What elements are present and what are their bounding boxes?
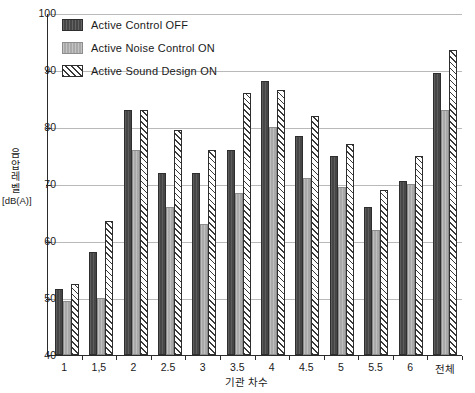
bar xyxy=(364,207,372,355)
legend: Active Control OFFActive Noise Control O… xyxy=(62,14,262,83)
bar-group xyxy=(428,14,462,355)
bar xyxy=(63,301,71,355)
y-tick-mark xyxy=(46,242,51,243)
bar xyxy=(158,173,166,355)
bar xyxy=(399,181,407,355)
x-tick-label: 2 xyxy=(116,356,151,374)
bar xyxy=(166,207,174,355)
bar xyxy=(124,110,132,355)
x-tick-mark xyxy=(358,356,359,360)
y-tick-mark xyxy=(46,299,51,300)
y-tick-label: 70 xyxy=(28,178,56,190)
bar xyxy=(433,73,441,355)
sound-pressure-level-bar-chart: 음압레벨[dB(A)] 405060708090100 11,522.533.5… xyxy=(0,0,475,393)
bar xyxy=(71,284,79,355)
y-tick-label: 50 xyxy=(28,292,56,304)
y-tick-mark xyxy=(46,185,51,186)
bar xyxy=(89,252,97,355)
x-tick-mark xyxy=(427,356,428,360)
bar xyxy=(269,127,277,355)
y-tick-label: 100 xyxy=(28,7,56,19)
x-tick-mark xyxy=(289,356,290,360)
bar xyxy=(311,116,319,355)
legend-swatch-off xyxy=(62,19,83,31)
legend-item: Active Sound Design ON xyxy=(62,60,262,81)
bar xyxy=(372,230,380,355)
bar xyxy=(243,93,251,355)
legend-swatch-design xyxy=(62,65,83,77)
bar xyxy=(330,156,338,356)
bar-group xyxy=(290,14,324,355)
legend-item: Active Control OFF xyxy=(62,14,262,35)
legend-label: Active Sound Design ON xyxy=(91,65,217,77)
bar xyxy=(200,224,208,355)
bar xyxy=(338,187,346,355)
y-tick-mark xyxy=(46,71,51,72)
bar xyxy=(97,298,105,355)
x-tick-label: 1 xyxy=(47,356,82,374)
bar xyxy=(303,178,311,355)
bar xyxy=(441,110,449,355)
bar xyxy=(295,136,303,355)
legend-swatch-noise xyxy=(62,42,83,54)
x-tick-label: 3.5 xyxy=(220,356,255,374)
x-tick-mark xyxy=(220,356,221,360)
bar xyxy=(208,150,216,355)
bar xyxy=(407,184,415,355)
x-tick-label: 2.5 xyxy=(151,356,186,374)
x-tick-label: 4 xyxy=(254,356,289,374)
bar xyxy=(132,150,140,355)
legend-item: Active Noise Control ON xyxy=(62,37,262,58)
y-tick-label: 60 xyxy=(28,235,56,247)
bar xyxy=(140,110,148,355)
x-tick-label: 6 xyxy=(393,356,428,374)
x-tick-mark xyxy=(255,356,256,360)
x-axis-title: 기관 차수 xyxy=(0,374,475,389)
bar xyxy=(174,130,182,355)
legend-label: Active Control OFF xyxy=(91,19,188,31)
bar xyxy=(235,193,243,355)
x-tick-mark xyxy=(185,356,186,360)
bar xyxy=(227,150,235,355)
x-tick-label: 5.5 xyxy=(358,356,393,374)
bar xyxy=(415,156,423,356)
y-axis-unit: [dB(A)] xyxy=(2,195,28,207)
bar xyxy=(346,144,354,355)
bar xyxy=(105,221,113,355)
x-tick-mark xyxy=(116,356,117,360)
bar-group xyxy=(359,14,393,355)
x-tick-mark xyxy=(82,356,83,360)
x-tick-mark xyxy=(151,356,152,360)
bar-group xyxy=(393,14,427,355)
bar xyxy=(192,173,200,355)
y-axis-title-char: 벨 xyxy=(2,183,28,195)
y-axis-title-char: 레 xyxy=(2,171,28,183)
x-tick-label: 전체 xyxy=(427,356,462,374)
x-tick-label: 4.5 xyxy=(289,356,324,374)
x-tick-mark xyxy=(324,356,325,360)
x-tick-label: 5 xyxy=(324,356,359,374)
x-tick-mark xyxy=(393,356,394,360)
y-tick-label: 80 xyxy=(28,121,56,133)
bar-group xyxy=(325,14,359,355)
y-axis-title-char: 압 xyxy=(2,160,28,172)
bar xyxy=(261,81,269,355)
bar xyxy=(449,50,457,355)
y-tick-label: 90 xyxy=(28,64,56,76)
x-tick-label: 3 xyxy=(185,356,220,374)
y-axis-title-char: 음 xyxy=(2,148,28,160)
x-tick-mark xyxy=(462,356,463,360)
y-tick-mark xyxy=(46,128,51,129)
x-tick-label: 1,5 xyxy=(82,356,117,374)
bar xyxy=(277,90,285,355)
bar xyxy=(380,190,388,355)
y-axis-title: 음압레벨[dB(A)] xyxy=(2,148,28,207)
legend-label: Active Noise Control ON xyxy=(91,42,215,54)
